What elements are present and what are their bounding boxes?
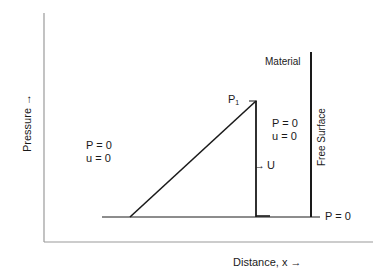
right-region-velocity: u = 0	[272, 131, 297, 142]
peak-pressure-label: P1	[228, 94, 239, 106]
x-axis-label: Distance, x →	[233, 257, 301, 268]
pressure-ramp	[130, 101, 256, 217]
left-region-velocity: u = 0	[86, 153, 111, 164]
peak-pressure-sub: 1	[235, 99, 239, 106]
y-axis-label: Pressure →	[22, 94, 33, 152]
right-region-pressure: P = 0	[272, 118, 298, 129]
left-region-pressure: P = 0	[86, 140, 112, 151]
velocity-arrow-icon: →	[254, 159, 265, 171]
material-label: Material	[265, 57, 301, 67]
velocity-label: U	[267, 159, 275, 171]
diagram-canvas	[0, 0, 386, 278]
free-surface-label: Free Surface	[317, 108, 327, 166]
baseline-pressure-label: P = 0	[325, 211, 351, 222]
velocity-indicator: →U	[254, 160, 275, 171]
